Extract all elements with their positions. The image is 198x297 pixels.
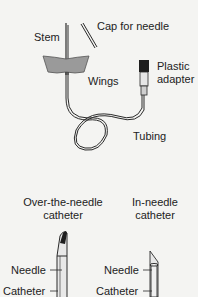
title-over-the-needle-line1: Over-the-needle [18, 196, 108, 208]
label-plastic-adapter-line1: Plastic [157, 60, 189, 72]
title-over-the-needle-line2: catheter [18, 209, 108, 221]
in-needle-catheter-drawing [143, 251, 158, 297]
label-over-needle-catheter: Catheter [3, 285, 45, 297]
label-stem: Stem [34, 31, 60, 43]
title-in-needle-line2: catheter [120, 209, 190, 221]
plastic-adapter [139, 60, 149, 95]
label-wings: Wings [88, 75, 119, 87]
label-over-needle-needle: Needle [11, 264, 46, 276]
needle-cap [81, 23, 97, 48]
diagram-illustration [0, 0, 198, 297]
label-cap-for-needle: Cap for needle [97, 20, 169, 32]
label-plastic-adapter-line2: adapter [157, 73, 194, 85]
label-in-needle-catheter: Catheter [96, 285, 138, 297]
label-in-needle-needle: Needle [104, 264, 139, 276]
label-tubing: Tubing [133, 130, 166, 142]
title-in-needle-line1: In-needle [120, 196, 190, 208]
over-the-needle-catheter-drawing [50, 231, 67, 297]
